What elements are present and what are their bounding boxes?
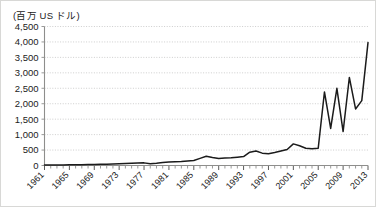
- x-axis-tick-label: 1977: [124, 170, 145, 191]
- x-axis-tick-label: 1965: [50, 170, 71, 191]
- x-axis-tick-label: 2005: [298, 170, 319, 191]
- x-axis-tick-label: 1989: [199, 170, 220, 191]
- axes-group: [45, 27, 369, 166]
- y-axis-tick-label: 1,500: [15, 114, 39, 125]
- x-axis-tick-label: 1981: [149, 170, 170, 191]
- chart-plot-area: 05001,0001,5002,0002,5003,0003,5004,0004…: [1, 1, 376, 207]
- y-axis-tick-label: 2,000: [15, 98, 39, 109]
- x-axis-tick-label: 1985: [174, 170, 195, 191]
- x-axis-tick-label: 2013: [348, 170, 369, 191]
- chart-container: (百万 US ドル) 05001,0001,5002,0002,5003,000…: [0, 0, 376, 207]
- y-axis-tick-label: 3,500: [15, 52, 39, 63]
- x-axis-tick-label: 1969: [74, 170, 95, 191]
- y-axis-tick-label: 3,000: [15, 67, 39, 78]
- x-axis-tick-label: 1997: [249, 170, 270, 191]
- y-axis-tick-label: 0: [33, 160, 38, 171]
- x-axis-tick-label: 1993: [224, 170, 245, 191]
- y-axis-tick-label: 4,500: [15, 21, 39, 32]
- y-axis-tick-label: 500: [23, 144, 39, 155]
- x-axis-tick-labels: 1961196519691973197719811985198919931997…: [25, 166, 370, 192]
- x-axis-tick-label: 2009: [323, 170, 344, 191]
- y-axis-tick-label: 2,500: [15, 83, 39, 94]
- y-axis-tick-label: 4,000: [15, 36, 39, 47]
- y-axis-tick-label: 1,000: [15, 129, 39, 140]
- x-axis-tick-label: 1973: [99, 170, 120, 191]
- x-axis-tick-label: 2001: [274, 170, 295, 191]
- x-axis-tick-label: 1961: [25, 170, 46, 191]
- y-axis-tick-labels: 05001,0001,5002,0002,5003,0003,5004,0004…: [15, 21, 45, 171]
